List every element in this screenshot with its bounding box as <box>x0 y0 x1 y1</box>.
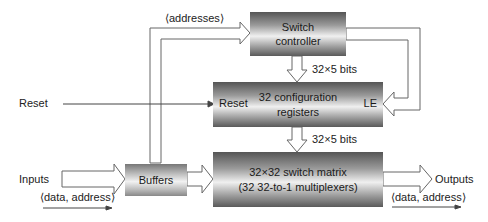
outputs-arrow <box>383 165 432 193</box>
buffers-to-matrix-arrow <box>187 165 213 193</box>
outputs-sub-label: ⟨data, address⟩ <box>391 192 466 203</box>
buffers-label: Buffers <box>139 173 174 187</box>
switch-controller-label-1: Switch <box>282 20 314 34</box>
config-registers-label-1: 32 configuration <box>259 90 337 104</box>
inputs-label: Inputs <box>19 174 49 185</box>
bits-top-label: 32×5 bits <box>312 64 357 75</box>
bits-arrow-top <box>287 56 307 82</box>
switch-matrix-label-1: 32×32 switch matrix <box>249 165 347 179</box>
config-registers-block: 32 configuration registers Reset LE <box>213 82 383 127</box>
buffers-block: Buffers <box>125 164 187 196</box>
switch-matrix-label-2: (32 32-to-1 multiplexers) <box>238 180 357 194</box>
bits-arrow-bottom <box>287 127 307 152</box>
outputs-label: Outputs <box>435 174 474 185</box>
switch-controller-label-2: controller <box>275 34 320 48</box>
addresses-label: ⟨addresses⟩ <box>165 13 224 24</box>
bits-bottom-label: 32×5 bits <box>312 134 357 145</box>
inputs-sub-label: ⟨data, address⟩ <box>40 192 115 203</box>
reset-label: Reset <box>19 98 48 109</box>
switch-matrix-block: 32×32 switch matrix (32 32-to-1 multiple… <box>213 152 383 207</box>
config-registers-label-2: registers <box>277 105 319 119</box>
le-port-label: LE <box>364 96 377 110</box>
switch-controller-block: Switch controller <box>250 12 346 56</box>
inputs-arrow <box>62 164 125 194</box>
reset-port-label: Reset <box>219 96 248 110</box>
